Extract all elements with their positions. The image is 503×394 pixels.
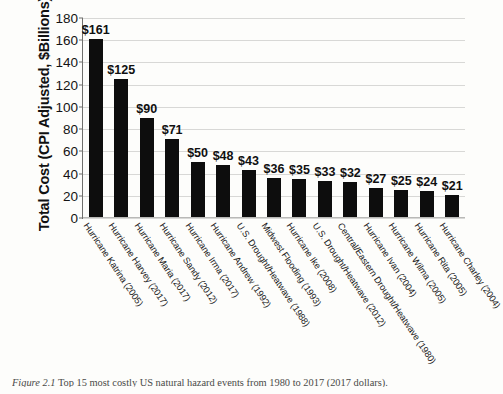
y-axis-tick-label: 0 bbox=[70, 211, 78, 226]
bar-value-label: $27 bbox=[365, 172, 386, 186]
bar-value-label: $161 bbox=[82, 23, 110, 37]
bar-slot bbox=[445, 195, 459, 218]
y-axis-tick-label: 60 bbox=[63, 144, 78, 159]
bar-slot bbox=[394, 190, 408, 218]
gridline bbox=[83, 40, 465, 41]
y-axis-tick-label: 160 bbox=[55, 33, 78, 48]
y-axis-tick-label: 20 bbox=[63, 188, 78, 203]
bar bbox=[89, 39, 103, 218]
bar-slot bbox=[318, 181, 332, 218]
bar-slot bbox=[292, 179, 306, 218]
bar-value-label: $25 bbox=[391, 174, 412, 188]
plot-area: $161$125$90$71$50$48$43$36$35$33$32$27$2… bbox=[83, 18, 465, 218]
bar-value-label: $33 bbox=[314, 165, 335, 179]
bar-value-label: $125 bbox=[107, 63, 135, 77]
y-axis-tick-label: 100 bbox=[55, 99, 78, 114]
bar bbox=[242, 170, 256, 218]
y-axis-tick-label: 140 bbox=[55, 55, 78, 70]
bar-value-label: $48 bbox=[213, 149, 234, 163]
bar bbox=[191, 162, 205, 218]
bar bbox=[369, 188, 383, 218]
gridline bbox=[83, 85, 465, 86]
y-axis-tick-label: 80 bbox=[63, 122, 78, 137]
gridline bbox=[83, 18, 465, 19]
bar-value-label: $90 bbox=[136, 102, 157, 116]
bar-value-label: $71 bbox=[162, 123, 183, 137]
x-axis-line bbox=[83, 217, 465, 218]
bar-slot bbox=[89, 39, 103, 218]
bar bbox=[420, 191, 434, 218]
bar-slot bbox=[114, 79, 128, 218]
gridline bbox=[83, 62, 465, 63]
bar bbox=[114, 79, 128, 218]
bar bbox=[140, 118, 154, 218]
bar-value-label: $21 bbox=[442, 179, 463, 193]
y-axis-tick-labels: 180160140120100806040200 bbox=[40, 18, 78, 218]
bar-value-label: $35 bbox=[289, 163, 310, 177]
gridline bbox=[83, 218, 465, 219]
bar-value-label: $50 bbox=[187, 146, 208, 160]
bar-slot bbox=[242, 170, 256, 218]
bar bbox=[165, 139, 179, 218]
bar bbox=[343, 182, 357, 218]
caption-clip-mask bbox=[0, 387, 480, 394]
bar-slot bbox=[343, 182, 357, 218]
bar bbox=[216, 165, 230, 218]
y-axis-tick-label: 120 bbox=[55, 77, 78, 92]
bar-value-label: $24 bbox=[416, 175, 437, 189]
bar-slot bbox=[191, 162, 205, 218]
bar-slot bbox=[140, 118, 154, 218]
bar-slot bbox=[216, 165, 230, 218]
bar-value-label: $36 bbox=[264, 162, 285, 176]
bar-slot bbox=[369, 188, 383, 218]
y-axis-tick-label: 180 bbox=[55, 11, 78, 26]
bar-slot bbox=[165, 139, 179, 218]
bar-value-label: $43 bbox=[238, 154, 259, 168]
bar-slot bbox=[267, 178, 281, 218]
bar-slot bbox=[420, 191, 434, 218]
bar-value-label: $32 bbox=[340, 166, 361, 180]
bar bbox=[318, 181, 332, 218]
bar bbox=[292, 179, 306, 218]
bar bbox=[267, 178, 281, 218]
y-axis-tick-label: 40 bbox=[63, 166, 78, 181]
bar bbox=[394, 190, 408, 218]
x-axis-category-labels: Hurricane Katrina (2005)Hurricane Harvey… bbox=[83, 221, 465, 361]
bar bbox=[445, 195, 459, 218]
